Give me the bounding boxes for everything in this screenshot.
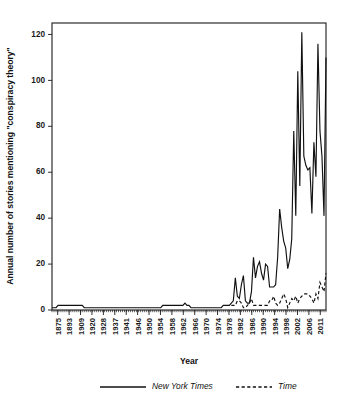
- x-tick-label: 1941: [122, 317, 131, 335]
- y-tick-label: 20: [36, 259, 46, 268]
- series-line-nyt: [52, 32, 326, 308]
- legend-label: Time: [278, 381, 297, 391]
- x-tick-label: 1875: [54, 317, 63, 335]
- y-tick-label: 60: [36, 167, 46, 176]
- series-line-time: [231, 273, 326, 307]
- y-tick-label: 100: [31, 76, 45, 85]
- plot-area-frame: [52, 23, 326, 310]
- x-tick-label: 2011: [316, 317, 325, 334]
- x-tick-label: 1970: [202, 318, 211, 335]
- x-axis-title: Year: [180, 356, 199, 366]
- x-tick-label: 1990: [259, 318, 268, 335]
- chart-svg: 020406080100120 187518931909192019281937…: [0, 0, 345, 401]
- y-axis-title: Annual number of stories mentioning "con…: [5, 47, 15, 284]
- x-tick-label: 1893: [65, 318, 74, 335]
- x-tick-label: 1974: [214, 317, 223, 335]
- x-tick-label: 1920: [88, 318, 97, 335]
- x-tick-label: 1966: [191, 318, 200, 335]
- y-tick-label: 80: [36, 121, 46, 130]
- x-tick-label: 1978: [225, 318, 234, 335]
- x-tick-label: 1909: [77, 318, 86, 335]
- x-tick-label: 1937: [111, 318, 120, 335]
- x-tick-label: 2006: [305, 318, 314, 335]
- legend-label: New York Times: [152, 381, 214, 391]
- x-tick-label: 1998: [282, 318, 291, 335]
- data-series-group: [52, 32, 326, 308]
- x-tick-label: 1986: [248, 318, 257, 335]
- x-tick-label: 1946: [134, 318, 143, 335]
- x-tick-label: 1950: [145, 318, 154, 335]
- x-tick-label: 2002: [293, 318, 302, 335]
- x-tick-label: 1928: [99, 318, 108, 335]
- x-tick-label: 1954: [156, 317, 165, 335]
- x-tick-label: 1958: [168, 318, 177, 335]
- y-axis: 020406080100120: [31, 30, 52, 315]
- chart-legend: New York TimesTime: [100, 381, 297, 391]
- y-tick-label: 40: [36, 213, 46, 222]
- y-tick-label: 120: [31, 30, 45, 39]
- x-axis: 1875189319091920192819371941194619501954…: [52, 310, 326, 335]
- x-tick-label: 1962: [179, 318, 188, 335]
- x-tick-label: 1994: [271, 317, 280, 335]
- y-tick-label: 0: [40, 305, 45, 314]
- chart-figure: 020406080100120 187518931909192019281937…: [0, 0, 345, 401]
- x-tick-label: 1982: [236, 318, 245, 335]
